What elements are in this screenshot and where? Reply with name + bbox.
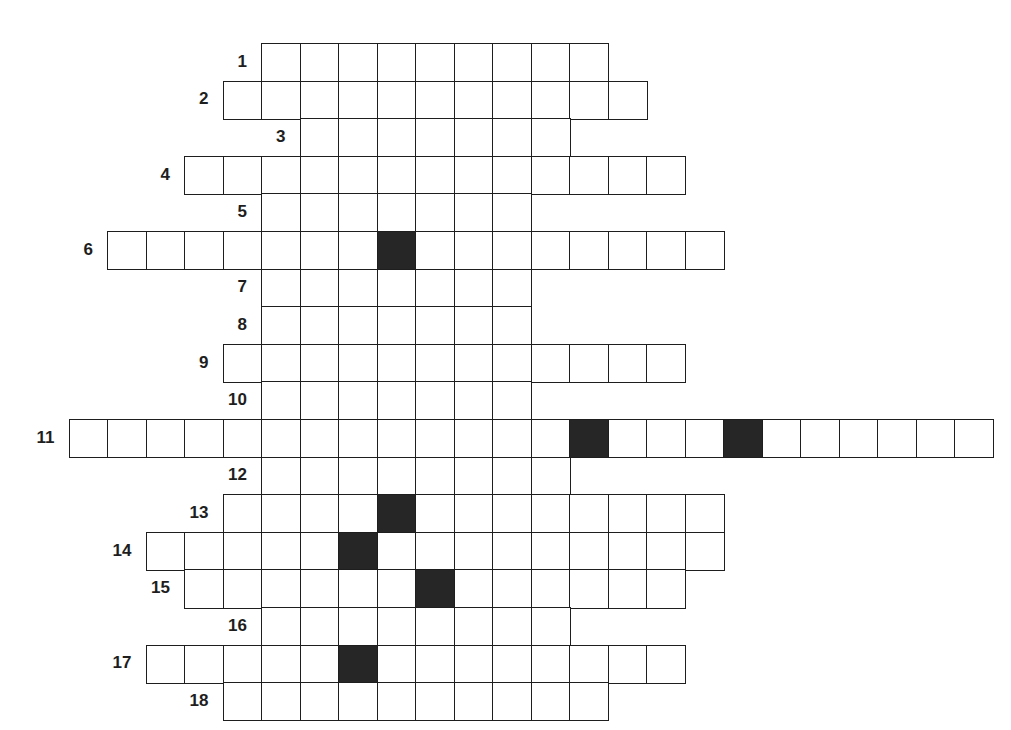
answer-cell[interactable] bbox=[300, 81, 340, 120]
answer-cell[interactable] bbox=[377, 269, 417, 308]
answer-cell[interactable] bbox=[646, 494, 686, 533]
answer-cell[interactable] bbox=[223, 645, 263, 684]
answer-cell[interactable] bbox=[492, 494, 532, 533]
answer-cell[interactable] bbox=[223, 81, 263, 120]
answer-cell[interactable] bbox=[377, 645, 417, 684]
answer-cell[interactable] bbox=[338, 344, 378, 383]
answer-cell[interactable] bbox=[261, 419, 301, 458]
answer-cell[interactable] bbox=[531, 156, 571, 195]
answer-cell[interactable] bbox=[492, 43, 532, 82]
answer-cell[interactable] bbox=[300, 193, 340, 232]
answer-cell[interactable] bbox=[184, 569, 224, 608]
answer-cell[interactable] bbox=[415, 81, 455, 120]
answer-cell[interactable] bbox=[377, 419, 417, 458]
answer-cell[interactable] bbox=[338, 569, 378, 608]
answer-cell[interactable] bbox=[492, 156, 532, 195]
answer-cell[interactable] bbox=[916, 419, 956, 458]
answer-cell[interactable] bbox=[569, 43, 609, 82]
answer-cell[interactable] bbox=[415, 682, 455, 721]
answer-cell[interactable] bbox=[454, 645, 494, 684]
answer-cell[interactable] bbox=[877, 419, 917, 458]
answer-cell[interactable] bbox=[415, 607, 455, 646]
answer-cell[interactable] bbox=[338, 193, 378, 232]
answer-cell[interactable] bbox=[569, 231, 609, 270]
answer-cell[interactable] bbox=[146, 645, 186, 684]
answer-cell[interactable] bbox=[454, 532, 494, 571]
answer-cell[interactable] bbox=[261, 43, 301, 82]
answer-cell[interactable] bbox=[300, 156, 340, 195]
answer-cell[interactable] bbox=[492, 344, 532, 383]
answer-cell[interactable] bbox=[377, 156, 417, 195]
answer-cell[interactable] bbox=[377, 532, 417, 571]
answer-cell[interactable] bbox=[415, 118, 455, 157]
answer-cell[interactable] bbox=[415, 43, 455, 82]
answer-cell[interactable] bbox=[839, 419, 879, 458]
answer-cell[interactable] bbox=[492, 269, 532, 308]
answer-cell[interactable] bbox=[454, 269, 494, 308]
answer-cell[interactable] bbox=[338, 682, 378, 721]
answer-cell[interactable] bbox=[531, 419, 571, 458]
answer-cell[interactable] bbox=[184, 419, 224, 458]
answer-cell[interactable] bbox=[954, 419, 994, 458]
answer-cell[interactable] bbox=[223, 494, 263, 533]
answer-cell[interactable] bbox=[454, 81, 494, 120]
answer-cell[interactable] bbox=[492, 569, 532, 608]
answer-cell[interactable] bbox=[531, 494, 571, 533]
answer-cell[interactable] bbox=[338, 43, 378, 82]
answer-cell[interactable] bbox=[377, 306, 417, 345]
answer-cell[interactable] bbox=[454, 569, 494, 608]
answer-cell[interactable] bbox=[569, 156, 609, 195]
answer-cell[interactable] bbox=[300, 43, 340, 82]
answer-cell[interactable] bbox=[415, 645, 455, 684]
answer-cell[interactable] bbox=[531, 569, 571, 608]
answer-cell[interactable] bbox=[454, 193, 494, 232]
answer-cell[interactable] bbox=[223, 156, 263, 195]
answer-cell[interactable] bbox=[646, 419, 686, 458]
answer-cell[interactable] bbox=[223, 532, 263, 571]
answer-cell[interactable] bbox=[338, 269, 378, 308]
answer-cell[interactable] bbox=[184, 645, 224, 684]
answer-cell[interactable] bbox=[454, 381, 494, 420]
answer-cell[interactable] bbox=[338, 81, 378, 120]
answer-cell[interactable] bbox=[685, 532, 725, 571]
answer-cell[interactable] bbox=[223, 419, 263, 458]
answer-cell[interactable] bbox=[223, 569, 263, 608]
answer-cell[interactable] bbox=[261, 645, 301, 684]
answer-cell[interactable] bbox=[608, 81, 648, 120]
answer-cell[interactable] bbox=[608, 494, 648, 533]
answer-cell[interactable] bbox=[300, 607, 340, 646]
answer-cell[interactable] bbox=[261, 381, 301, 420]
answer-cell[interactable] bbox=[569, 494, 609, 533]
answer-cell[interactable] bbox=[261, 306, 301, 345]
answer-cell[interactable] bbox=[454, 607, 494, 646]
answer-cell[interactable] bbox=[608, 419, 648, 458]
answer-cell[interactable] bbox=[107, 419, 147, 458]
answer-cell[interactable] bbox=[184, 532, 224, 571]
answer-cell[interactable] bbox=[492, 231, 532, 270]
answer-cell[interactable] bbox=[608, 645, 648, 684]
answer-cell[interactable] bbox=[492, 645, 532, 684]
answer-cell[interactable] bbox=[338, 156, 378, 195]
answer-cell[interactable] bbox=[184, 231, 224, 270]
answer-cell[interactable] bbox=[492, 532, 532, 571]
answer-cell[interactable] bbox=[608, 569, 648, 608]
answer-cell[interactable] bbox=[146, 532, 186, 571]
answer-cell[interactable] bbox=[415, 381, 455, 420]
answer-cell[interactable] bbox=[300, 494, 340, 533]
answer-cell[interactable] bbox=[300, 118, 340, 157]
answer-cell[interactable] bbox=[454, 457, 494, 496]
answer-cell[interactable] bbox=[415, 269, 455, 308]
answer-cell[interactable] bbox=[454, 231, 494, 270]
answer-cell[interactable] bbox=[300, 306, 340, 345]
answer-cell[interactable] bbox=[531, 457, 571, 496]
answer-cell[interactable] bbox=[762, 419, 802, 458]
answer-cell[interactable] bbox=[492, 682, 532, 721]
answer-cell[interactable] bbox=[415, 344, 455, 383]
answer-cell[interactable] bbox=[261, 81, 301, 120]
answer-cell[interactable] bbox=[454, 344, 494, 383]
answer-cell[interactable] bbox=[377, 81, 417, 120]
answer-cell[interactable] bbox=[261, 569, 301, 608]
answer-cell[interactable] bbox=[492, 306, 532, 345]
answer-cell[interactable] bbox=[800, 419, 840, 458]
answer-cell[interactable] bbox=[415, 231, 455, 270]
